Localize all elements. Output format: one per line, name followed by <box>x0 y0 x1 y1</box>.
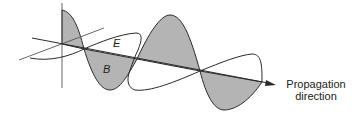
propagation-direction-label: Propagation direction <box>281 78 351 102</box>
propagation-label-line2: direction <box>281 90 351 102</box>
arrow-head-icon <box>265 80 276 86</box>
propagation-label-line1: Propagation <box>281 78 351 90</box>
electric-field-label: E <box>113 37 120 49</box>
magnetic-field-label: B <box>103 63 110 75</box>
magnetic-field-wave <box>62 10 262 110</box>
wave-diagram <box>0 0 354 122</box>
